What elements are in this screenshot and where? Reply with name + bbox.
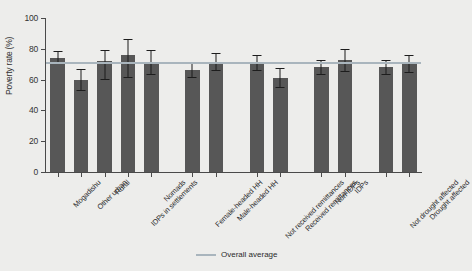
y-tick-label: 100: [24, 13, 38, 23]
x-axis-label-group: MogadishuOther urbanRuralIDPs in settlem…: [46, 176, 421, 246]
y-tick-label: 80: [29, 44, 38, 54]
y-tick-label: 0: [33, 167, 38, 177]
bar: [402, 63, 417, 172]
y-tick-label: 20: [29, 136, 38, 146]
legend-line-swatch: [196, 254, 216, 256]
y-tick-label: 60: [29, 75, 38, 85]
plot-area: 020406080100: [46, 18, 421, 172]
y-tick: [41, 49, 46, 50]
y-tick: [41, 110, 46, 111]
y-tick-label: 40: [29, 105, 38, 115]
bar: [273, 78, 288, 172]
bar: [50, 58, 65, 172]
y-tick: [41, 18, 46, 19]
bar: [338, 60, 353, 172]
bar: [250, 63, 265, 172]
y-tick: [41, 80, 46, 81]
bar: [379, 67, 394, 172]
x-tick-label: Not received remittances: [283, 178, 345, 240]
y-axis-title: Poverty rate (%): [4, 37, 14, 95]
bar: [185, 70, 200, 172]
y-tick: [41, 141, 46, 142]
y-axis-line: [45, 18, 46, 173]
bar: [314, 67, 329, 172]
bar: [144, 62, 159, 172]
x-axis-line: [45, 172, 422, 173]
legend-label-overall-average: Overall average: [221, 250, 277, 259]
bar: [74, 80, 89, 172]
y-tick: [41, 172, 46, 173]
overall-average-line: [46, 62, 421, 64]
x-tick-label: Not drought affected: [408, 178, 460, 230]
bar: [209, 62, 224, 172]
legend: Overall average: [196, 250, 277, 259]
